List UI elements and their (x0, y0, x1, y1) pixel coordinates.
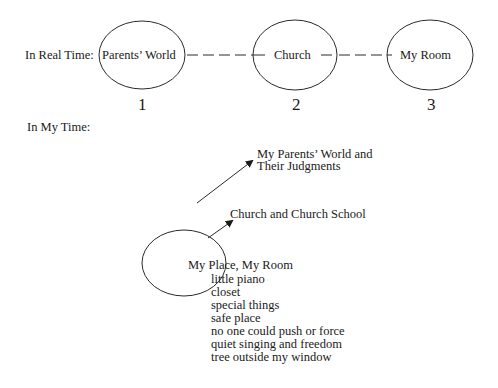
node-number-1: 1 (138, 96, 147, 113)
node-label-parents-world: Parents’ World (102, 49, 176, 62)
center-label-my-place: My Place, My Room (188, 259, 293, 272)
node-number-2: 2 (292, 96, 301, 113)
real-time-label: In Real Time: (25, 49, 94, 62)
node-number-3: 3 (427, 96, 436, 113)
arrow-target-church-school: Church and Church School (230, 208, 366, 221)
my-room-items-list: little piano closet special things safe … (211, 273, 345, 364)
node-label-my-room: My Room (400, 49, 451, 62)
list-item: tree outside my window (211, 351, 345, 364)
arrow-to-church-school (208, 221, 232, 238)
my-time-label: In My Time: (27, 121, 90, 134)
arrow-target-parents-world-line2: Their Judgments (257, 160, 341, 173)
node-label-church: Church (274, 49, 311, 62)
arrow-to-parents-world (197, 161, 252, 203)
